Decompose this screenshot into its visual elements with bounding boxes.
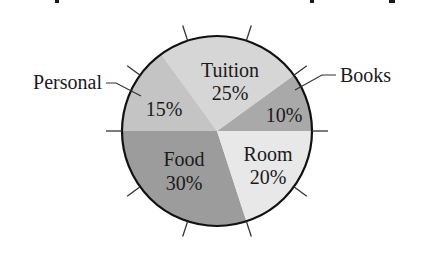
pct-room: 20% <box>250 166 287 188</box>
pct-tuition: 25% <box>212 82 249 104</box>
label-books: Books <box>340 64 391 86</box>
label-food: Food <box>163 148 204 170</box>
pct-books: 10% <box>266 104 303 126</box>
label-tuition: Tuition <box>201 59 259 81</box>
pct-food: 30% <box>166 172 203 194</box>
label-room: Room <box>244 143 293 165</box>
pct-personal: 15% <box>146 98 183 120</box>
label-personal: Personal <box>33 71 102 93</box>
pie-chart: Tuition 25% 15% 10% Room 20% Food 30% Pe… <box>0 0 424 254</box>
title-fragments <box>55 0 395 3</box>
